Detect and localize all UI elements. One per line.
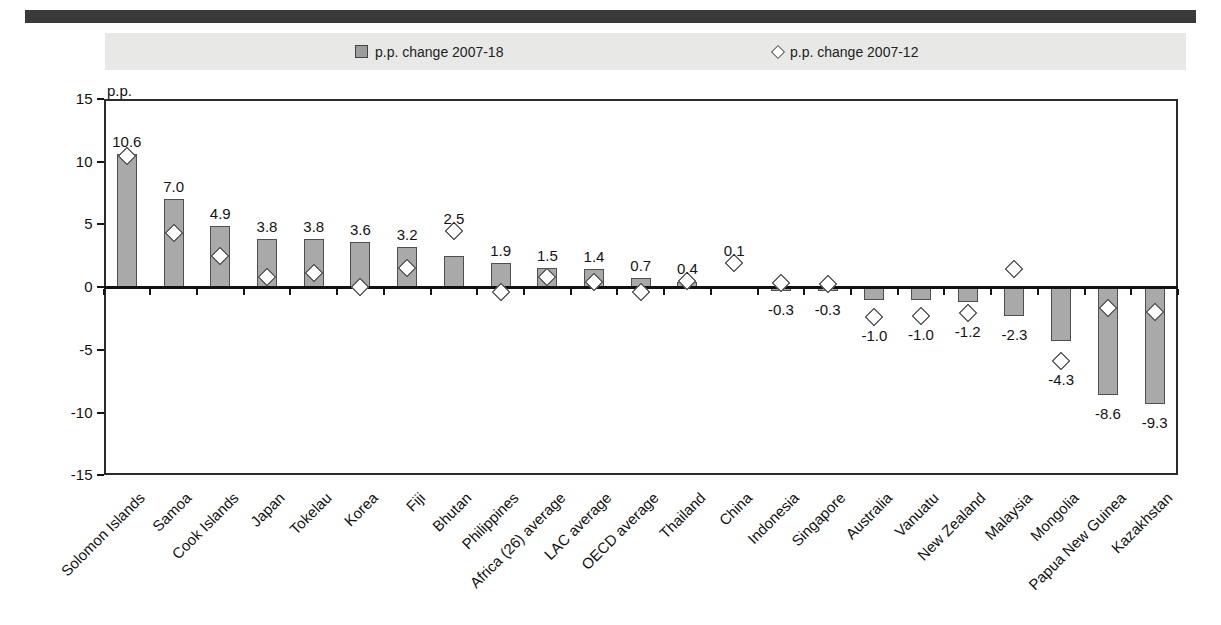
y-axis-tick-label: 0 — [53, 278, 93, 296]
x-axis-tick — [1177, 289, 1179, 295]
y-axis-tick — [97, 349, 104, 351]
category-label-china: China — [715, 489, 755, 529]
x-axis-tick — [243, 289, 245, 295]
category-label-thailand: Thailand — [656, 489, 709, 542]
x-axis-tick — [103, 289, 105, 295]
x-axis-tick — [430, 289, 432, 295]
value-label: -2.3 — [1002, 326, 1028, 343]
x-axis-tick — [990, 289, 992, 295]
x-axis-tick — [383, 289, 385, 295]
category-label-australia: Australia — [842, 489, 895, 542]
x-axis-tick — [289, 289, 291, 295]
y-axis-tick — [97, 474, 104, 476]
x-axis-tick — [1037, 289, 1039, 295]
x-axis-tick — [336, 289, 338, 295]
value-label: 1.4 — [584, 248, 605, 265]
value-label: 0.7 — [630, 257, 651, 274]
x-axis-tick — [149, 289, 151, 295]
category-label-solomon-islands: Solomon Islands — [57, 489, 147, 579]
value-label: -9.3 — [1142, 414, 1168, 431]
value-label: -1.2 — [955, 323, 981, 340]
value-label: 1.9 — [490, 242, 511, 259]
y-axis-tick-label: -10 — [53, 404, 93, 422]
x-axis-tick — [1084, 289, 1086, 295]
plot-area: 151050-5-10-1510.67.04.93.83.83.63.22.51… — [0, 0, 1221, 625]
x-axis-tick — [897, 289, 899, 295]
category-label-tokelau: Tokelau — [286, 489, 335, 538]
y-axis-tick — [97, 98, 104, 100]
category-label-bhutan: Bhutan — [429, 489, 475, 535]
value-label: -8.6 — [1095, 405, 1121, 422]
category-label-malaysia: Malaysia — [982, 489, 1036, 543]
x-axis-tick — [570, 289, 572, 295]
value-label: 7.0 — [163, 178, 184, 195]
y-axis-tick — [97, 412, 104, 414]
value-label: 3.6 — [350, 221, 371, 238]
y-axis-tick-label: 15 — [53, 90, 93, 108]
category-label-korea: Korea — [341, 489, 381, 529]
x-axis-tick — [943, 289, 945, 295]
bar-new-zealand — [958, 287, 978, 302]
y-axis-tick — [97, 223, 104, 225]
value-label: 3.8 — [303, 218, 324, 235]
x-axis-tick — [616, 289, 618, 295]
x-axis-tick — [757, 289, 759, 295]
value-label: 10.6 — [112, 133, 141, 150]
value-label: 3.8 — [257, 218, 278, 235]
x-axis-tick — [710, 289, 712, 295]
y-axis-tick-label: 5 — [53, 215, 93, 233]
value-label: -0.3 — [815, 301, 841, 318]
value-label: -1.0 — [861, 327, 887, 344]
chart-figure: p.p. change 2007-18 p.p. change 2007-12 … — [0, 0, 1221, 625]
x-axis-tick — [663, 289, 665, 295]
value-label: 3.2 — [397, 226, 418, 243]
value-label: -1.0 — [908, 326, 934, 343]
bar-bhutan — [444, 256, 464, 287]
y-axis-tick-label: -15 — [53, 466, 93, 484]
bar-solomon-islands — [117, 154, 137, 287]
value-label: 0.1 — [724, 242, 745, 259]
x-axis-tick — [1130, 289, 1132, 295]
value-label: -0.3 — [768, 301, 794, 318]
category-label-fiji: Fiji — [403, 489, 429, 515]
y-axis-tick-label: -5 — [53, 341, 93, 359]
y-axis-tick-label: 10 — [53, 153, 93, 171]
x-axis-tick — [850, 289, 852, 295]
x-axis-tick — [196, 289, 198, 295]
bar-mongolia — [1051, 287, 1071, 341]
bar-malaysia — [1004, 287, 1024, 316]
category-label-japan: Japan — [247, 489, 288, 530]
bar-australia — [864, 287, 884, 300]
value-label: 1.5 — [537, 247, 558, 264]
value-label: 4.9 — [210, 205, 231, 222]
value-label: 2.5 — [443, 210, 464, 227]
bar-samoa — [164, 199, 184, 287]
bar-vanuatu — [911, 287, 931, 300]
x-axis-tick — [476, 289, 478, 295]
value-label: 0.4 — [677, 260, 698, 277]
category-label-samoa: Samoa — [149, 489, 195, 535]
value-label: -4.3 — [1048, 371, 1074, 388]
y-axis-tick — [97, 161, 104, 163]
x-axis-tick — [523, 289, 525, 295]
x-axis-tick — [803, 289, 805, 295]
